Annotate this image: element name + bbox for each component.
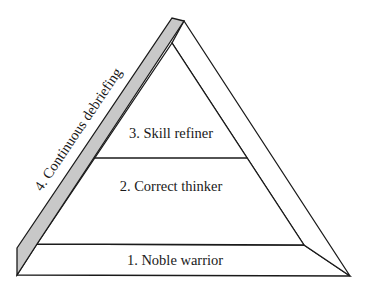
level-1-label: 1. Noble warrior	[127, 252, 223, 268]
pyramid-diagram: 3. Skill refiner 2. Correct thinker 1. N…	[0, 0, 365, 295]
level-2-label: 2. Correct thinker	[120, 178, 223, 194]
level-3-label: 3. Skill refiner	[129, 125, 213, 141]
